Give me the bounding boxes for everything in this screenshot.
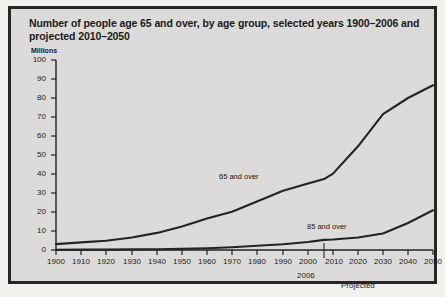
series-label-85-and-over: 85 and over [307, 222, 347, 231]
y-tick-label: 60 [24, 132, 46, 140]
y-tick-label: 50 [24, 151, 46, 159]
y-tick-label: 0 [24, 246, 46, 254]
y-tick-label: 10 [24, 227, 46, 235]
scanned-page: Number of people age 65 and over, by age… [0, 0, 445, 297]
chart-canvas [48, 53, 438, 258]
series-line-65-and-over [56, 85, 433, 244]
chart-title: Number of people age 65 and over, by age… [29, 17, 429, 43]
y-tick-marks [51, 60, 56, 250]
year-2006-marker: 2006 [297, 271, 315, 280]
series-label-65-and-over: 65 and over [219, 172, 259, 181]
y-tick-label: 90 [24, 75, 46, 83]
plot-area: 100 90 80 70 60 50 40 30 20 10 0 1900 19… [48, 53, 438, 258]
series-line-85-and-over [56, 210, 433, 250]
y-tick-label: 40 [24, 170, 46, 178]
y-tick-label: 100 [24, 56, 46, 64]
y-tick-label: 20 [24, 208, 46, 216]
x-tick-label: 2050 [418, 257, 445, 266]
figure-frame: Number of people age 65 and over, by age… [8, 6, 437, 284]
figure-inner: Number of people age 65 and over, by age… [11, 9, 434, 281]
y-tick-label: 30 [24, 189, 46, 197]
y-tick-label: 70 [24, 113, 46, 121]
projected-range-label: Projected [341, 281, 375, 290]
x-tick-marks [56, 250, 433, 255]
y-tick-label: 80 [24, 94, 46, 102]
